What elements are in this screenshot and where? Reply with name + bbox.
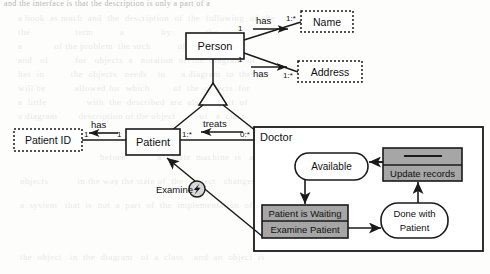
person-name-association-line	[244, 22, 301, 40]
person-address-association-line	[244, 53, 298, 72]
name-attribute-box	[301, 11, 353, 32]
diagram-vector-layer	[0, 0, 490, 274]
generalization-triangle	[199, 83, 227, 105]
state-done-with-patient-shape	[381, 203, 448, 238]
state-available-shape	[295, 153, 368, 180]
patient-id-attribute-box	[14, 129, 82, 151]
generalization-leg-patient	[171, 105, 203, 131]
person-class-box	[186, 33, 244, 59]
examine-signal-line	[167, 158, 262, 236]
diagram-canvas: and the interface is that the descriptio…	[0, 0, 490, 274]
patient-class-box	[126, 129, 180, 155]
generalization-leg-doctor	[223, 105, 256, 131]
address-attribute-box	[298, 61, 362, 82]
